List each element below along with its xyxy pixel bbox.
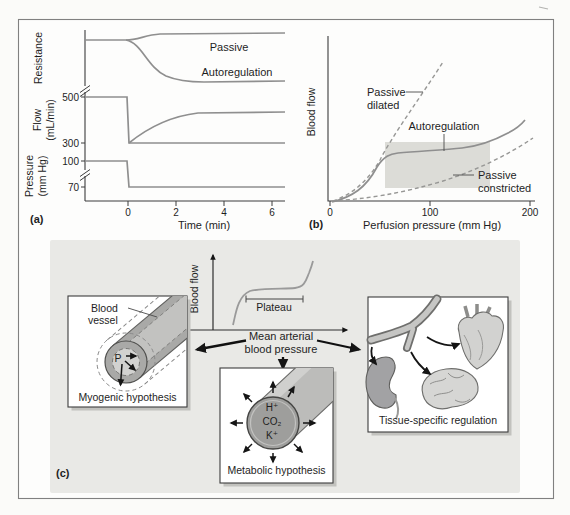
blood-vessel-callout-2: vessel	[88, 314, 118, 326]
resistance-passive-label: Passive	[210, 41, 249, 53]
blood-vessel-callout-1: Blood	[91, 302, 118, 314]
pressure-tick-100: 100	[62, 156, 79, 167]
passive-dilated-label-2: dilated	[367, 99, 399, 111]
panel-c: (c) Blood flow Plateau Mean arterial blo…	[50, 240, 520, 493]
a-xaxis-label: Time (min)	[178, 219, 230, 231]
panel-a-letter: (a)	[30, 213, 44, 225]
autoregulation-label-b: Autoregulation	[409, 120, 480, 132]
b-xaxis-label: Perfusion pressure (mm Hg)	[363, 219, 501, 231]
a-xtick-0: 0	[125, 207, 131, 218]
panel-c-letter: (c)	[56, 467, 70, 479]
figure-canvas: Passive Autoregulation Resistance Flow (…	[0, 0, 570, 515]
flow-axis-label: Flow	[31, 108, 43, 131]
inset-xlabel-line1: Mean arterial	[249, 330, 313, 342]
tissue-box: Tissue-specific regulation	[366, 297, 512, 436]
flow-axis-units: (mL/min)	[44, 99, 56, 140]
pressure-symbol: P	[114, 352, 121, 364]
pressure-tick-70: 70	[68, 182, 80, 193]
resistance-autoregulation-label: Autoregulation	[202, 66, 273, 78]
ion-k: K⁺	[266, 430, 278, 441]
a-xtick-6: 6	[269, 207, 275, 218]
physiology-figure: Passive Autoregulation Resistance Flow (…	[0, 0, 570, 515]
flow-tick-500: 500	[62, 92, 79, 103]
a-xtick-4: 4	[221, 207, 227, 218]
pressure-axis-label: Pressure	[23, 155, 35, 197]
a-xtick-2: 2	[173, 207, 179, 218]
panel-b-letter: (b)	[309, 218, 323, 230]
passive-constricted-label-1: Passive	[478, 169, 517, 181]
plateau-label: Plateau	[256, 301, 292, 313]
flow-tick-300: 300	[62, 138, 79, 149]
passive-dilated-label-1: Passive	[367, 86, 406, 98]
metabolic-caption: Metabolic hypothesis	[227, 464, 325, 476]
metabolic-box: H⁺ CO₂ K⁺ Metabolic hypothesis	[220, 347, 352, 487]
b-xtick-200: 200	[522, 207, 539, 218]
passive-constricted-label-2: constricted	[478, 182, 531, 194]
b-xtick-100: 100	[422, 207, 439, 218]
b-yaxis-label: Blood flow	[305, 87, 317, 136]
ion-co2: CO₂	[263, 416, 282, 427]
autoregulatory-range-band	[385, 142, 490, 188]
ion-h: H⁺	[266, 402, 279, 413]
resistance-axis-label: Resistance	[32, 32, 44, 84]
myogenic-caption: Myogenic hypothesis	[78, 391, 176, 403]
inset-xlabel-line2: blood pressure	[245, 343, 318, 355]
b-xtick-0: 0	[327, 207, 333, 218]
pressure-axis-units: (mm Hg)	[36, 156, 48, 197]
tissue-caption: Tissue-specific regulation	[379, 414, 497, 426]
